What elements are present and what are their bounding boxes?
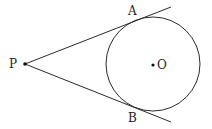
point-O-dot	[151, 63, 154, 66]
label-B: B	[128, 111, 137, 125]
tangent-diagram: P O A B	[0, 0, 212, 129]
label-O: O	[157, 58, 167, 72]
tangent-line-PB	[25, 64, 171, 122]
tangent-line-PA	[25, 7, 171, 64]
label-P: P	[9, 57, 17, 71]
label-A: A	[127, 4, 137, 18]
point-P-dot	[23, 62, 27, 66]
